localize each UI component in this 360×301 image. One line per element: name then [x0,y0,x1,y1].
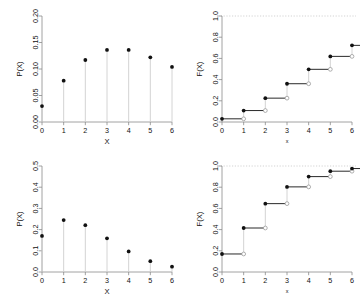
open-endpoint [263,226,267,230]
y-tick-label: 0.4 [31,182,40,192]
open-endpoint [242,117,246,121]
panel-cdf-top-right: 0.00.20.40.60.81.00123456xF(X) [180,0,360,151]
x-tick-label: 4 [307,276,311,285]
data-point [148,259,152,263]
open-endpoint [307,185,311,189]
y-tick-label: 0.15 [31,36,40,50]
y-tick-label: 0.2 [211,246,220,256]
x-axis-label: x [286,288,289,294]
chart-cdf-top-right: 0.00.20.40.60.81.00123456xF(X) [180,0,360,151]
open-endpoint [263,109,267,113]
y-tick-label: 0.3 [31,203,40,213]
y-axis-label: F(X) [195,61,204,76]
data-point [127,250,131,254]
data-point [105,236,109,240]
y-tick-label: 0.20 [31,9,40,23]
x-tick-label: 5 [148,276,152,285]
closed-endpoint [285,185,289,189]
open-endpoint [307,82,311,86]
x-tick-label: 3 [105,276,109,285]
x-tick-label: 0 [220,126,224,135]
x-tick-label: 5 [328,126,332,135]
closed-endpoint [328,54,332,58]
y-tick-label: 0.5 [31,161,40,171]
data-point [83,223,87,227]
data-point [170,65,174,69]
x-tick-label: 6 [350,126,354,135]
x-tick-label: 6 [170,276,174,285]
x-axis-label: x [286,138,289,144]
closed-endpoint [307,67,311,71]
x-tick-label: 5 [148,126,152,135]
x-tick-label: 1 [242,276,246,285]
x-tick-label: 2 [83,276,87,285]
x-tick-label: 3 [285,126,289,135]
y-tick-label: 0.10 [31,62,40,76]
y-tick-label: 0.2 [211,96,220,106]
x-tick-label: 3 [105,126,109,135]
x-tick-label: 4 [127,126,131,135]
closed-endpoint [350,43,354,47]
open-endpoint [328,175,332,179]
x-tick-label: 4 [307,126,311,135]
open-endpoint [285,96,289,100]
open-endpoint [328,67,332,71]
x-tick-label: 0 [220,276,224,285]
data-point [148,55,152,59]
closed-endpoint [328,169,332,173]
x-tick-label: 2 [263,126,267,135]
data-point [170,265,174,269]
data-point [40,104,44,108]
open-endpoint [350,54,354,58]
closed-endpoint [307,175,311,179]
x-axis-label: X [104,287,109,296]
data-point [83,58,87,62]
closed-endpoint [242,226,246,230]
y-axis-label: P(X) [15,211,24,227]
x-tick-label: 1 [62,126,66,135]
y-tick-label: 0.6 [211,53,220,63]
y-tick-label: 0.8 [211,182,220,192]
open-endpoint [285,202,289,206]
chart-cdf-bottom-right: 0.00.20.40.60.81.00123456xF(X) [180,150,360,301]
x-tick-label: 0 [40,126,44,135]
x-tick-label: 5 [328,276,332,285]
data-point [62,218,66,222]
panel-pmf-bottom-left: 0.00.10.20.30.40.50123456XP(X) [0,150,180,301]
chart-pmf-bottom-left: 0.00.10.20.30.40.50123456XP(X) [0,150,180,301]
x-tick-label: 1 [62,276,66,285]
data-point [105,48,109,52]
y-tick-label: 0.4 [211,225,220,235]
y-tick-label: 1.0 [211,11,220,21]
x-tick-label: 1 [242,126,246,135]
open-endpoint [242,252,246,256]
closed-endpoint [350,167,354,171]
closed-endpoint [285,82,289,86]
x-tick-label: 6 [170,126,174,135]
x-tick-label: 0 [40,276,44,285]
y-tick-label: 0.6 [211,203,220,213]
y-tick-label: 0.1 [31,246,40,256]
y-axis-label: P(X) [15,61,24,77]
x-axis-label: X [104,137,109,146]
y-tick-label: 0.8 [211,32,220,42]
x-tick-label: 2 [83,126,87,135]
chart-pmf-top-left: 0.000.050.100.150.200123456XP(X) [0,0,180,151]
y-tick-label: 0.05 [31,89,40,103]
x-tick-label: 2 [263,276,267,285]
y-tick-label: 0.4 [211,75,220,85]
data-point [40,234,44,238]
closed-endpoint [263,202,267,206]
closed-endpoint [242,109,246,113]
y-tick-label: 1.0 [211,161,220,171]
closed-endpoint [263,96,267,100]
x-tick-label: 4 [127,276,131,285]
data-point [127,48,131,52]
y-axis-label: F(X) [195,211,204,226]
data-point [62,79,66,83]
closed-endpoint [220,252,224,256]
closed-endpoint [220,117,224,121]
y-tick-label: 0.2 [31,225,40,235]
x-tick-label: 6 [350,276,354,285]
